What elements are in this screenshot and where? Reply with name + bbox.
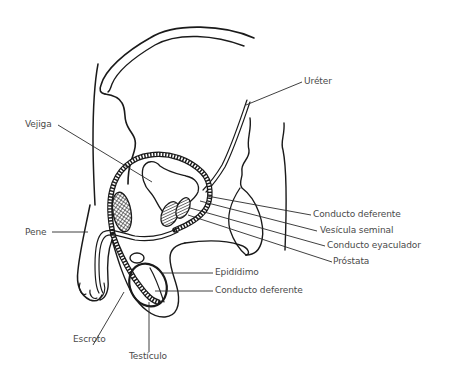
label-ureter: Uréter	[304, 77, 332, 86]
penis-outline	[78, 205, 113, 301]
abdomen-outline	[93, 64, 98, 205]
label-prostata: Próstata	[333, 257, 369, 266]
label-epididimo: Epidídimo	[215, 268, 259, 277]
label-escroto: Escroto	[73, 335, 106, 344]
anatomy-illustration	[0, 0, 449, 385]
label-conducto-deferente-bottom: Conducto deferente	[215, 286, 303, 295]
label-pene: Pene	[25, 228, 47, 237]
male-reproductive-system-diagram: Uréter Vejiga Conducto deferente Vesícul…	[0, 0, 449, 385]
label-vejiga: Vejiga	[25, 120, 52, 129]
spine-outline	[100, 27, 254, 184]
label-vesicula-seminal: Vesícula seminal	[320, 226, 393, 235]
ureter	[203, 100, 250, 192]
label-conducto-eyaculador: Conducto eyaculador	[327, 241, 421, 250]
label-testiculo: Testículo	[129, 352, 167, 361]
testicle	[122, 253, 173, 313]
label-conducto-deferente-top: Conducto deferente	[313, 210, 401, 219]
leader-lines	[52, 82, 332, 352]
